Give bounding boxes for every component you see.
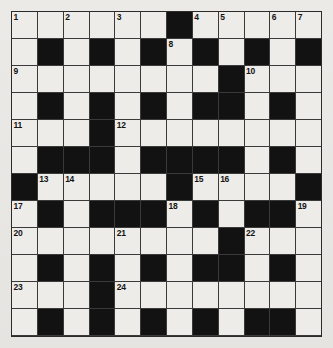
letter-cell[interactable] xyxy=(115,93,140,119)
letter-cell[interactable]: 12 xyxy=(115,120,140,146)
letter-cell[interactable] xyxy=(167,93,192,119)
letter-cell[interactable] xyxy=(219,39,244,65)
letter-cell[interactable] xyxy=(245,174,270,200)
letter-cell[interactable] xyxy=(90,228,115,254)
letter-cell[interactable] xyxy=(12,147,37,173)
letter-cell[interactable] xyxy=(141,120,166,146)
letter-cell[interactable] xyxy=(64,201,89,227)
letter-cell[interactable] xyxy=(245,255,270,281)
letter-cell[interactable] xyxy=(270,174,295,200)
letter-cell[interactable] xyxy=(167,66,192,92)
letter-cell[interactable]: 15 xyxy=(193,174,218,200)
letter-cell[interactable] xyxy=(193,282,218,308)
letter-cell[interactable] xyxy=(12,39,37,65)
letter-cell[interactable] xyxy=(141,12,166,38)
letter-cell[interactable] xyxy=(64,255,89,281)
letter-cell[interactable] xyxy=(115,174,140,200)
letter-cell[interactable] xyxy=(141,66,166,92)
letter-cell[interactable] xyxy=(115,147,140,173)
letter-cell[interactable] xyxy=(64,282,89,308)
letter-cell[interactable]: 4 xyxy=(193,12,218,38)
letter-cell[interactable] xyxy=(245,12,270,38)
letter-cell[interactable] xyxy=(270,39,295,65)
letter-cell[interactable] xyxy=(270,66,295,92)
letter-cell[interactable] xyxy=(270,282,295,308)
letter-cell[interactable] xyxy=(219,201,244,227)
letter-cell[interactable] xyxy=(90,12,115,38)
letter-cell[interactable]: 20 xyxy=(12,228,37,254)
letter-cell[interactable]: 13 xyxy=(38,174,63,200)
letter-cell[interactable] xyxy=(167,309,192,335)
letter-cell[interactable] xyxy=(296,228,321,254)
letter-cell[interactable] xyxy=(38,282,63,308)
letter-cell[interactable] xyxy=(296,120,321,146)
letter-cell[interactable]: 3 xyxy=(115,12,140,38)
letter-cell[interactable] xyxy=(245,120,270,146)
letter-cell[interactable]: 6 xyxy=(270,12,295,38)
letter-cell[interactable]: 17 xyxy=(12,201,37,227)
letter-cell[interactable]: 8 xyxy=(167,39,192,65)
letter-cell[interactable] xyxy=(90,66,115,92)
letter-cell[interactable] xyxy=(193,66,218,92)
letter-cell[interactable] xyxy=(296,309,321,335)
letter-cell[interactable] xyxy=(296,66,321,92)
letter-cell[interactable] xyxy=(270,228,295,254)
letter-cell[interactable] xyxy=(64,66,89,92)
letter-cell[interactable]: 14 xyxy=(64,174,89,200)
letter-cell[interactable] xyxy=(64,228,89,254)
letter-cell[interactable] xyxy=(12,309,37,335)
letter-cell[interactable] xyxy=(64,39,89,65)
letter-cell[interactable] xyxy=(115,309,140,335)
letter-cell[interactable]: 22 xyxy=(245,228,270,254)
letter-cell[interactable] xyxy=(245,282,270,308)
letter-cell[interactable] xyxy=(12,93,37,119)
letter-cell[interactable] xyxy=(219,282,244,308)
letter-cell[interactable]: 21 xyxy=(115,228,140,254)
letter-cell[interactable] xyxy=(167,255,192,281)
letter-cell[interactable] xyxy=(167,120,192,146)
letter-cell[interactable] xyxy=(219,309,244,335)
letter-cell[interactable] xyxy=(245,147,270,173)
letter-cell[interactable]: 19 xyxy=(296,201,321,227)
letter-cell[interactable] xyxy=(296,282,321,308)
block-cell xyxy=(90,120,115,146)
letter-cell[interactable] xyxy=(38,12,63,38)
letter-cell[interactable] xyxy=(115,255,140,281)
letter-cell[interactable] xyxy=(296,93,321,119)
letter-cell[interactable] xyxy=(141,228,166,254)
letter-cell[interactable] xyxy=(193,228,218,254)
letter-cell[interactable] xyxy=(115,39,140,65)
letter-cell[interactable] xyxy=(64,93,89,119)
letter-cell[interactable]: 24 xyxy=(115,282,140,308)
letter-cell[interactable] xyxy=(270,120,295,146)
letter-cell[interactable] xyxy=(38,66,63,92)
letter-cell[interactable] xyxy=(219,120,244,146)
letter-cell[interactable] xyxy=(141,174,166,200)
letter-cell[interactable] xyxy=(64,120,89,146)
block-cell xyxy=(270,93,295,119)
letter-cell[interactable] xyxy=(38,120,63,146)
letter-cell[interactable] xyxy=(296,147,321,173)
letter-cell[interactable]: 11 xyxy=(12,120,37,146)
letter-cell[interactable]: 2 xyxy=(64,12,89,38)
letter-cell[interactable] xyxy=(167,228,192,254)
letter-cell[interactable] xyxy=(296,255,321,281)
letter-cell[interactable] xyxy=(90,174,115,200)
letter-cell[interactable]: 16 xyxy=(219,174,244,200)
letter-cell[interactable] xyxy=(245,93,270,119)
letter-cell[interactable] xyxy=(141,282,166,308)
letter-cell[interactable]: 10 xyxy=(245,66,270,92)
letter-cell[interactable]: 7 xyxy=(296,12,321,38)
letter-cell[interactable] xyxy=(167,282,192,308)
letter-cell[interactable] xyxy=(12,255,37,281)
letter-cell[interactable]: 9 xyxy=(12,66,37,92)
letter-cell[interactable] xyxy=(38,228,63,254)
letter-cell[interactable]: 5 xyxy=(219,12,244,38)
letter-cell[interactable] xyxy=(64,309,89,335)
letter-cell[interactable] xyxy=(193,120,218,146)
crossword-grid[interactable]: 1234567891011121314151617181920212223242… xyxy=(12,12,321,336)
letter-cell[interactable]: 23 xyxy=(12,282,37,308)
letter-cell[interactable] xyxy=(115,66,140,92)
letter-cell[interactable]: 1 xyxy=(12,12,37,38)
letter-cell[interactable]: 18 xyxy=(167,201,192,227)
